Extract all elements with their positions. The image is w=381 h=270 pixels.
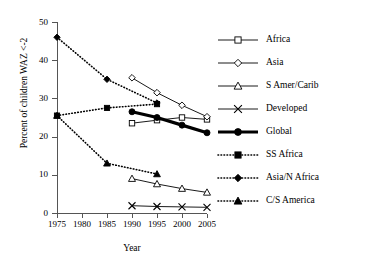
series-asia-n-africa [54,34,160,106]
legend-sample-filled-triangle-icon [216,194,260,208]
legend-item-developed[interactable]: Developed [216,97,376,120]
legend-item-asia-n-africa[interactable]: Asia/N Africa [216,166,376,189]
legend-label: Developed [260,103,307,114]
legend-item-s-amer-carib[interactable]: S Amer/Carib [216,74,376,97]
legend-label: S Amer/Carib [260,80,319,91]
legend-label: Global [260,126,292,137]
legend-sample-open-square-icon [216,33,260,47]
chart-legend: AfricaAsiaS Amer/CaribDevelopedGlobalSS … [216,28,376,212]
legend-sample-filled-circle-icon [216,125,260,139]
legend-sample-filled-diamond-icon [216,171,260,185]
legend-item-ss-africa[interactable]: SS Africa [216,143,376,166]
legend-item-africa[interactable]: Africa [216,28,376,51]
legend-label: SS Africa [260,149,303,160]
legend-sample-open-triangle-icon [216,79,260,93]
legend-label: Asia/N Africa [260,172,319,183]
legend-label: Asia [260,57,283,68]
legend-sample-filled-square-icon [216,148,260,162]
legend-label: C/S America [260,195,315,206]
chart-figure: 01020304050 1975198019851990199520002005… [0,0,381,270]
legend-item-c-s-america[interactable]: C/S America [216,189,376,212]
legend-label: Africa [260,34,290,45]
legend-item-asia[interactable]: Asia [216,51,376,74]
legend-sample-open-diamond-icon [216,56,260,70]
series-developed [129,202,211,211]
legend-item-global[interactable]: Global [216,120,376,143]
legend-sample-cross-x-icon [216,102,260,116]
series-s-amer-carib [129,175,211,195]
